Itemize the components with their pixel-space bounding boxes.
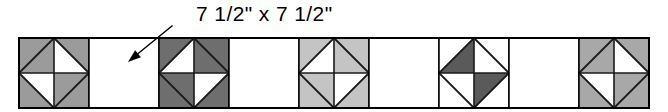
block-background [509,38,579,108]
block-background [369,38,439,108]
block-background [229,38,299,108]
quilt-block-pieced [159,38,229,108]
quilt-block-pieced [439,38,509,108]
quilt-block-plain [509,38,579,108]
block-dimension-label: 7 1/2" x 7 1/2" [196,2,333,26]
quilt-block-plain [229,38,299,108]
quilt-block-pieced [579,38,649,108]
block-background [89,38,159,108]
quilt-block-pieced [299,38,369,108]
quilt-block-plain [89,38,159,108]
blocks-layer [19,38,649,108]
quilt-block-plain [369,38,439,108]
quilt-row-illustration [0,0,668,112]
quilt-row-diagram: 7 1/2" x 7 1/2" [0,0,668,112]
quilt-block-pieced [19,38,89,108]
